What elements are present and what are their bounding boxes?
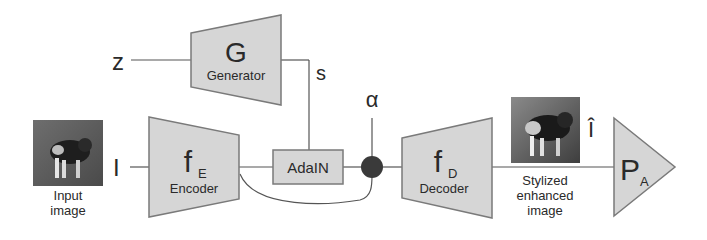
output-image-caption-line2: enhanced [516,188,573,203]
i-label: I [113,154,120,181]
encoder-block: f E Encoder [149,117,239,217]
adain-label: AdaIN [287,159,329,176]
input-image-caption-line2: image [50,203,85,218]
input-image [33,120,103,186]
output-image [511,97,580,163]
input-image-caption-line1: Input [54,188,83,203]
decoder-block: f D Decoder [402,118,492,218]
predictor-symbol: P [620,153,640,186]
mixer-node [361,156,383,178]
output-image-caption-line1: Stylized [522,173,568,188]
architecture-diagram: z G Generator s Input image I f E Encode… [0,0,707,240]
i-hat-label: Î [587,117,595,142]
predictor-block: P A [614,118,675,216]
decoder-symbol: f [434,145,443,178]
generator-name: Generator [207,68,266,83]
decoder-subscript: D [448,166,457,181]
decoder-name: Decoder [419,181,469,196]
s-label: s [316,62,326,84]
generator-block: G Generator [191,15,281,105]
predictor-subscript: A [640,174,649,189]
encoder-symbol: f [184,145,193,178]
output-image-caption-line3: image [527,203,562,218]
encoder-subscript: E [198,166,207,181]
encoder-name: Encoder [170,181,219,196]
alpha-label: α [366,87,379,112]
z-label: z [112,48,124,75]
generator-symbol: G [225,37,247,68]
adain-block: AdaIN [273,150,343,184]
